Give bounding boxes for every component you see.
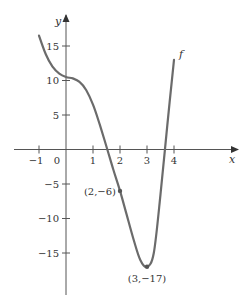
x-tick-label: 3 [144, 155, 150, 166]
point-marker [145, 265, 149, 269]
x-tick-label: 1 [90, 155, 96, 166]
y-tick-label: 10 [46, 75, 59, 86]
x-ticks: −101234 [29, 146, 178, 166]
y-tick-label: −15 [38, 248, 59, 259]
y-tick-label: 15 [46, 41, 59, 52]
x-axis-label: x [229, 153, 236, 166]
y-axis-label: y [54, 15, 62, 28]
x-tick-label: 2 [117, 155, 123, 166]
point-label: (2,−6) [84, 186, 116, 197]
point-label: (3,−17) [128, 273, 167, 284]
function-graph: −101234 15105−5−10−15 x y f (2,−6)(3,−17… [0, 0, 250, 308]
curve-f [39, 36, 174, 267]
y-tick-label: −5 [44, 179, 59, 190]
point-marker [118, 189, 122, 193]
x-tick-label: −1 [29, 155, 44, 166]
x-tick-label: 0 [54, 155, 60, 166]
curve-label-f: f [178, 48, 185, 61]
annotations: (2,−6)(3,−17) [84, 186, 166, 284]
x-tick-label: 4 [171, 155, 177, 166]
y-tick-label: 5 [53, 110, 59, 121]
y-tick-label: −10 [38, 213, 59, 224]
